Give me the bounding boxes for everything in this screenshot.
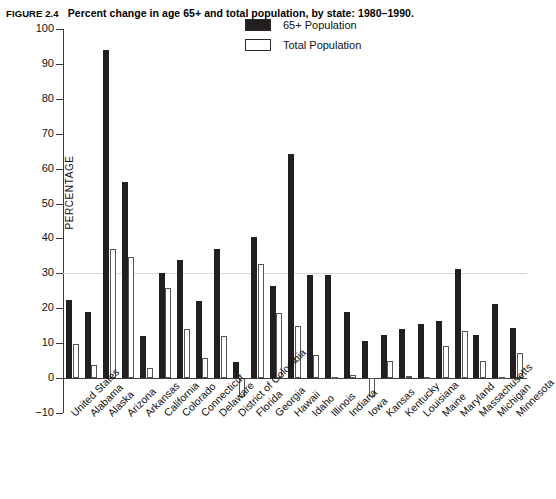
bar-total: [499, 377, 505, 379]
y-axis-tick-label: 30: [12, 267, 54, 278]
bar-total: [406, 376, 412, 378]
bar-65plus: [159, 273, 165, 378]
bar-total: [350, 375, 356, 378]
y-axis-tick: [56, 29, 63, 30]
y-axis-tick-label: 80: [12, 93, 54, 104]
bar-65plus: [214, 249, 220, 378]
y-axis-tick-label: 50: [12, 198, 54, 209]
bar-total: [387, 361, 393, 378]
y-axis-tick-label: 10: [12, 337, 54, 348]
y-axis-tick-label: 90: [12, 58, 54, 69]
bar-total: [443, 346, 449, 378]
y-axis-tick-label: 0: [12, 372, 54, 383]
y-axis-tick: [56, 413, 63, 414]
y-axis-tick-label: 40: [12, 232, 54, 243]
bar-65plus: [473, 335, 479, 378]
y-axis-tick: [56, 273, 63, 274]
legend-item-total: Total Population: [245, 36, 420, 53]
bar-total: [313, 355, 319, 378]
bar-total: [184, 329, 190, 378]
legend-label-65plus: 65+ Population: [283, 19, 357, 31]
y-axis-tick: [56, 343, 63, 344]
legend-swatch-total-icon: [245, 39, 271, 51]
bar-total: [202, 358, 208, 378]
bar-total: [73, 344, 79, 378]
bar-65plus: [362, 341, 368, 378]
bar-65plus: [307, 275, 313, 378]
figure-number: FIGURE 2.4: [6, 8, 59, 19]
y-axis-tick-label: 60: [12, 163, 54, 174]
bar-65plus: [436, 321, 442, 378]
bar-65plus: [399, 329, 405, 378]
bar-total: [147, 368, 153, 378]
bar-65plus: [288, 154, 294, 378]
bar-65plus: [103, 50, 109, 378]
bar-65plus: [140, 336, 146, 378]
bar-total: [110, 249, 116, 378]
bar-65plus: [455, 269, 461, 378]
y-axis-tick: [56, 99, 63, 100]
bar-65plus: [196, 301, 202, 378]
y-axis-tick: [56, 238, 63, 239]
bar-total: [221, 336, 227, 378]
bar-65plus: [66, 300, 72, 378]
chart-legend: 65+ Population Total Population: [245, 16, 420, 56]
bar-total: [165, 288, 171, 378]
bar-total: [332, 377, 338, 379]
y-axis-tick-label: 70: [12, 128, 54, 139]
bar-total: [424, 377, 430, 379]
y-axis-tick: [56, 378, 63, 379]
bar-total: [480, 361, 486, 378]
bar-65plus: [251, 237, 257, 378]
y-axis-tick-label: −10: [12, 407, 54, 418]
bar-65plus: [492, 304, 498, 378]
bar-65plus: [344, 312, 350, 378]
y-axis-tick: [56, 204, 63, 205]
legend-label-total: Total Population: [283, 39, 361, 51]
bar-65plus: [325, 275, 331, 378]
y-axis-tick: [56, 64, 63, 65]
bar-65plus: [418, 324, 424, 378]
bar-65plus: [85, 312, 91, 378]
bar-65plus: [177, 260, 183, 378]
y-axis-tick-label: 20: [12, 302, 54, 313]
bar-65plus: [122, 182, 128, 378]
bar-65plus: [381, 335, 387, 378]
bar-total: [128, 257, 134, 378]
bar-total: [462, 331, 468, 378]
y-axis-tick: [56, 134, 63, 135]
y-axis-tick: [56, 308, 63, 309]
y-axis-tick: [56, 169, 63, 170]
legend-item-65plus: 65+ Population: [245, 16, 420, 33]
bar-65plus: [270, 286, 276, 378]
bar-total: [91, 365, 97, 378]
legend-swatch-65plus-icon: [245, 19, 271, 31]
bar-total: [258, 264, 264, 378]
y-axis-tick-label: 100: [12, 23, 54, 34]
